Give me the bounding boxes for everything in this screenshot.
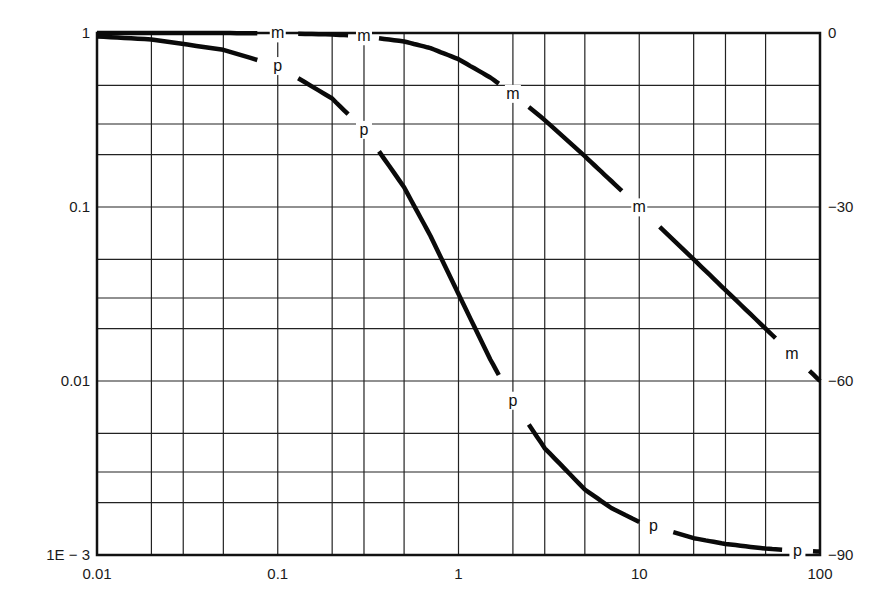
- curve-label-m: m: [633, 198, 646, 215]
- left-y-tick-label: 1E − 3: [46, 546, 90, 563]
- right-y-tick-label: −90: [828, 546, 853, 563]
- right-axis-tick-labels: 0−30−60−90: [828, 24, 853, 563]
- right-y-tick-label: −60: [828, 372, 853, 389]
- bode-plot: mmmmmppppp 0.010.1110100 10.10.011E − 3 …: [0, 0, 892, 605]
- x-tick-label: 1: [454, 565, 462, 582]
- left-y-tick-label: 0.1: [69, 198, 90, 215]
- x-tick-label: 100: [807, 565, 832, 582]
- curve-label-p: p: [273, 57, 282, 74]
- curve-label-p: p: [793, 542, 802, 559]
- curve-label-m: m: [357, 27, 370, 44]
- curve-label-p: p: [360, 121, 369, 138]
- right-y-tick-label: 0: [828, 24, 836, 41]
- left-y-tick-label: 0.01: [61, 372, 90, 389]
- x-tick-label: 0.1: [267, 565, 288, 582]
- x-tick-label: 0.01: [82, 565, 111, 582]
- left-axis-tick-labels: 10.10.011E − 3: [46, 24, 90, 563]
- curve-label-p: p: [649, 517, 658, 534]
- x-tick-label: 10: [631, 565, 648, 582]
- curve-label-p: p: [508, 392, 517, 409]
- curve-label-m: m: [785, 345, 798, 362]
- curve-label-m: m: [506, 85, 519, 102]
- curve-label-m: m: [271, 24, 284, 41]
- left-y-tick-label: 1: [82, 24, 90, 41]
- right-y-tick-label: −30: [828, 198, 853, 215]
- x-axis-tick-labels: 0.010.1110100: [82, 565, 832, 582]
